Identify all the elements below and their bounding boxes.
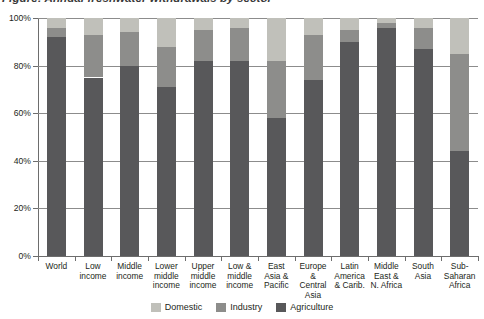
bar[interactable]	[377, 18, 396, 256]
bar[interactable]	[157, 18, 176, 256]
plot-area: 0%20%40%60%80%100%	[38, 18, 478, 256]
bar-segment-agriculture[interactable]	[230, 61, 249, 256]
bar-segment-industry[interactable]	[414, 28, 433, 49]
x-tick-mark	[221, 256, 222, 261]
x-tick-mark	[441, 256, 442, 261]
bar-segment-agriculture[interactable]	[450, 151, 469, 256]
bar-segment-industry[interactable]	[340, 30, 359, 42]
bar[interactable]	[120, 18, 139, 256]
bar-segment-domestic[interactable]	[230, 18, 249, 28]
category-label-line: income	[221, 281, 258, 291]
bar-segment-domestic[interactable]	[340, 18, 359, 30]
bar-segment-agriculture[interactable]	[267, 118, 286, 256]
bar-segment-domestic[interactable]	[304, 18, 323, 35]
bar-segment-industry[interactable]	[47, 28, 66, 38]
category-label-line: World	[38, 262, 75, 272]
category-label-line: N. Africa	[368, 281, 405, 291]
bar[interactable]	[47, 18, 66, 256]
legend-swatch-agriculture	[276, 303, 286, 312]
bar[interactable]	[340, 18, 359, 256]
x-axis-category-label: EastAsia &Pacific	[258, 262, 295, 291]
chart-title-clipped: Figure: Annual freshwater withdrawals by…	[0, 0, 484, 5]
page-title: Figure: Annual freshwater withdrawals by…	[0, 0, 484, 5]
bar-segment-industry[interactable]	[267, 61, 286, 118]
category-label-line: income	[185, 281, 222, 291]
bar-segment-industry[interactable]	[120, 32, 139, 65]
bar[interactable]	[267, 18, 286, 256]
bar-segment-domestic[interactable]	[157, 18, 176, 47]
legend-item-domestic[interactable]: Domestic	[151, 302, 203, 312]
y-axis-line	[38, 18, 39, 256]
bar-segment-domestic[interactable]	[47, 18, 66, 28]
bar-segment-domestic[interactable]	[120, 18, 139, 32]
bar-segment-agriculture[interactable]	[414, 49, 433, 256]
bar-segment-agriculture[interactable]	[157, 87, 176, 256]
x-axis-category-label: Lowincome	[75, 262, 112, 281]
bar-segment-industry[interactable]	[84, 35, 103, 78]
bar[interactable]	[450, 18, 469, 256]
bar-segment-industry[interactable]	[304, 35, 323, 80]
x-tick-mark	[295, 256, 296, 261]
legend-swatch-domestic	[151, 303, 161, 312]
category-label-line: income	[111, 272, 148, 282]
x-axis-category-label: Europe&CentralAsia	[295, 262, 332, 300]
bar-segment-agriculture[interactable]	[304, 80, 323, 256]
category-label-line: Pacific	[258, 281, 295, 291]
bar-segment-agriculture[interactable]	[47, 37, 66, 256]
bar-segment-agriculture[interactable]	[120, 66, 139, 256]
legend-item-industry[interactable]: Industry	[216, 302, 262, 312]
bar-segment-industry[interactable]	[377, 23, 396, 28]
legend-item-agriculture[interactable]: Agriculture	[276, 302, 333, 312]
x-axis-category-label: SouthAsia	[405, 262, 442, 281]
bar-segment-domestic[interactable]	[84, 18, 103, 35]
y-tick-mark	[33, 161, 38, 162]
bar-segment-domestic[interactable]	[414, 18, 433, 28]
legend-label-domestic: Domestic	[165, 302, 203, 312]
bar-segment-domestic[interactable]	[450, 18, 469, 54]
y-tick-label: 100%	[9, 14, 31, 23]
x-tick-mark	[75, 256, 76, 261]
bar-segment-domestic[interactable]	[377, 18, 396, 23]
x-axis-category-label: Sub-SaharanAfrica	[441, 262, 478, 291]
bar[interactable]	[84, 18, 103, 256]
x-axis-category-label: Low &middleincome	[221, 262, 258, 291]
y-tick-label: 60%	[14, 109, 31, 118]
chart-legend: DomesticIndustryAgriculture	[0, 302, 484, 312]
x-tick-mark	[405, 256, 406, 261]
x-axis-category-label: Middleincome	[111, 262, 148, 281]
stacked-bar-chart: Figure: Annual freshwater withdrawals by…	[0, 0, 484, 319]
gridline	[38, 208, 478, 209]
x-tick-mark	[258, 256, 259, 261]
x-tick-mark	[111, 256, 112, 261]
bar-segment-agriculture[interactable]	[194, 61, 213, 256]
bar-segment-industry[interactable]	[450, 54, 469, 152]
x-tick-mark	[478, 256, 479, 261]
bar[interactable]	[304, 18, 323, 256]
bar-segment-domestic[interactable]	[194, 18, 213, 30]
bar[interactable]	[194, 18, 213, 256]
x-tick-mark	[38, 256, 39, 261]
x-tick-mark	[185, 256, 186, 261]
bar-segment-industry[interactable]	[157, 47, 176, 87]
bar[interactable]	[230, 18, 249, 256]
bar-segment-agriculture[interactable]	[377, 28, 396, 256]
bar-segment-industry[interactable]	[230, 28, 249, 61]
bar-segment-industry[interactable]	[194, 30, 213, 61]
legend-label-agriculture: Agriculture	[290, 302, 333, 312]
category-label-line: & Carib.	[331, 281, 368, 291]
x-tick-mark	[368, 256, 369, 261]
bar[interactable]	[414, 18, 433, 256]
x-tick-mark	[331, 256, 332, 261]
bar-segment-agriculture[interactable]	[340, 42, 359, 256]
y-tick-mark	[33, 113, 38, 114]
category-label-line: Asia	[295, 291, 332, 301]
gridline	[38, 161, 478, 162]
category-label-line: Africa	[441, 281, 478, 291]
gridline	[38, 18, 478, 19]
bar-segment-agriculture[interactable]	[84, 78, 103, 257]
bar-segment-domestic[interactable]	[267, 18, 286, 61]
x-axis-category-label: Lowermiddleincome	[148, 262, 185, 291]
gridline	[38, 113, 478, 114]
y-tick-mark	[33, 66, 38, 67]
legend-swatch-industry	[216, 303, 226, 312]
